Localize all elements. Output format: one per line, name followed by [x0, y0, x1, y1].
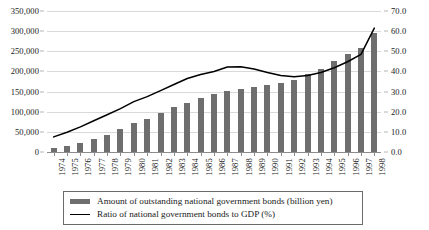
legend-bar-swatch-icon	[70, 199, 90, 204]
x-axis-tick-label: 1974	[58, 158, 67, 176]
legend-item-bond-gdp-ratio: Ratio of national government bonds to GD…	[70, 208, 356, 221]
x-axis-tick-label: 1990	[271, 158, 280, 176]
x-axis-tick	[174, 153, 175, 156]
y-axis-left-tick	[40, 11, 44, 12]
y-axis-right-tick	[384, 11, 388, 12]
x-axis-tick	[241, 153, 242, 156]
y-axis-left-tick	[40, 51, 44, 52]
y-axis-right-tick	[384, 131, 388, 132]
y-axis-right-tick-label: 10.0	[391, 128, 406, 137]
x-axis-tick-label: 1984	[191, 158, 200, 176]
x-axis-tick	[308, 153, 309, 156]
x-axis-tick-label: 1996	[352, 158, 361, 176]
y-axis-left-tick	[40, 152, 44, 153]
y-axis-right-tick-label: 60.0	[391, 27, 406, 36]
y-axis-left-tick-label: 100,000	[11, 107, 39, 116]
x-axis-tick	[321, 153, 322, 156]
x-axis-tick-label: 1989	[258, 158, 267, 176]
x-axis-tick	[161, 153, 162, 156]
ratio-line-path	[54, 28, 375, 137]
x-axis-tick-label: 1991	[285, 158, 294, 176]
y-axis-right-tick-label: 40.0	[391, 67, 406, 76]
x-axis-tick-label: 1997	[365, 158, 374, 176]
x-axis-tick	[334, 153, 335, 156]
x-axis-tick-label: 1994	[325, 158, 334, 176]
y-axis-left-tick-label: 150,000	[11, 87, 39, 96]
x-axis-tick	[361, 153, 362, 156]
line-series-bond-gdp-ratio	[47, 11, 381, 152]
x-axis-tick-label: 1987	[231, 158, 240, 176]
x-axis-tick	[147, 153, 148, 156]
x-axis-tick-label: 1998	[378, 158, 387, 176]
x-axis-tick	[67, 153, 68, 156]
y-axis-left-tick	[40, 91, 44, 92]
x-axis-tick-label: 1976	[84, 158, 93, 176]
x-axis: 1974197519761977197819791980198119821983…	[47, 153, 381, 189]
x-axis-tick-label: 1986	[218, 158, 227, 176]
x-axis-tick-label: 1983	[178, 158, 187, 176]
x-axis-tick	[107, 153, 108, 156]
x-axis-tick	[281, 153, 282, 156]
y-axis-right-tick-label: 50.0	[391, 47, 406, 56]
x-axis-tick-label: 1982	[165, 158, 174, 176]
x-axis-tick-label: 1979	[124, 158, 133, 176]
x-axis-tick	[254, 153, 255, 156]
y-axis-left-tick-label: 250,000	[11, 47, 39, 56]
x-axis-tick	[120, 153, 121, 156]
y-axis-right-tick	[384, 51, 388, 52]
x-axis-tick-label: 1993	[312, 158, 321, 176]
x-axis-tick-label: 1988	[245, 158, 254, 176]
x-axis-tick-label: 1980	[138, 158, 147, 176]
x-axis-tick	[348, 153, 349, 156]
y-axis-right-tick	[384, 111, 388, 112]
y-axis-right-tick-label: 70.0	[391, 7, 406, 16]
y-axis-right-tick-label: 0.0	[391, 148, 402, 157]
legend-item-outstanding-bonds: Amount of outstanding national governmen…	[70, 195, 356, 208]
x-axis-tick-label: 1992	[298, 158, 307, 176]
legend-label-bond-gdp-ratio: Ratio of national government bonds to GD…	[97, 210, 275, 219]
x-axis-tick	[294, 153, 295, 156]
plot-area	[47, 11, 381, 152]
legend-label-outstanding-bonds: Amount of outstanding national governmen…	[97, 197, 333, 206]
x-axis-tick-label: 1995	[338, 158, 347, 176]
x-axis-tick	[374, 153, 375, 156]
x-axis-tick	[54, 153, 55, 156]
y-axis-left-tick-label: 0	[35, 148, 39, 157]
chart-container: 050,000100,000150,000200,000250,000300,0…	[0, 0, 429, 230]
x-axis-tick	[201, 153, 202, 156]
x-axis-tick-label: 1978	[111, 158, 120, 176]
x-axis-tick-label: 1975	[71, 158, 80, 176]
x-axis-tick	[267, 153, 268, 156]
chart-legend: Amount of outstanding national governmen…	[63, 191, 363, 225]
legend-line-swatch-icon	[70, 214, 90, 215]
x-axis-tick	[227, 153, 228, 156]
y-axis-right-tick	[384, 31, 388, 32]
y-axis-left-tick	[40, 131, 44, 132]
y-axis-left-tick-label: 50,000	[15, 128, 39, 137]
y-axis-right-tick-label: 30.0	[391, 87, 406, 96]
y-axis-right-tick	[384, 152, 388, 153]
x-axis-tick-label: 1985	[205, 158, 214, 176]
y-axis-left: 050,000100,000150,000200,000250,000300,0…	[0, 11, 44, 152]
y-axis-right-tick-label: 20.0	[391, 107, 406, 116]
y-axis-right: 0.010.020.030.040.050.060.070.0	[384, 11, 429, 152]
y-axis-left-tick	[40, 71, 44, 72]
x-axis-tick-label: 1981	[151, 158, 160, 176]
y-axis-left-tick-label: 200,000	[11, 67, 39, 76]
x-axis-tick	[134, 153, 135, 156]
y-axis-left-tick	[40, 31, 44, 32]
y-axis-left-tick	[40, 111, 44, 112]
x-axis-tick	[214, 153, 215, 156]
y-axis-right-tick	[384, 91, 388, 92]
x-axis-tick-label: 1977	[98, 158, 107, 176]
x-axis-tick	[187, 153, 188, 156]
x-axis-tick	[80, 153, 81, 156]
y-axis-left-tick-label: 300,000	[11, 27, 39, 36]
y-axis-left-tick-label: 350,000	[11, 7, 39, 16]
x-axis-tick	[94, 153, 95, 156]
y-axis-right-tick	[384, 71, 388, 72]
